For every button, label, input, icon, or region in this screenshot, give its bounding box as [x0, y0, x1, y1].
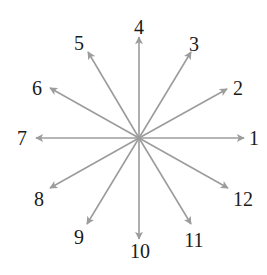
arrow-label-5: 5 — [74, 32, 84, 54]
arrow-label-4: 4 — [134, 16, 144, 38]
arrow-label-8: 8 — [34, 188, 44, 210]
arrow-12 — [139, 138, 228, 188]
arrow-6 — [50, 88, 139, 138]
arrow-label-10: 10 — [130, 240, 150, 262]
arrow-9 — [87, 138, 139, 224]
arrow-3 — [139, 52, 191, 138]
center-point — [137, 136, 140, 139]
arrow-label-7: 7 — [17, 127, 27, 149]
arrow-group — [36, 37, 244, 239]
arrow-label-12: 12 — [233, 188, 253, 210]
arrow-label-9: 9 — [74, 226, 84, 248]
arrow-2 — [139, 89, 227, 138]
arrow-8 — [50, 138, 139, 188]
radial-arrows-diagram: 123456789101112 — [0, 0, 267, 275]
arrow-11 — [139, 138, 191, 224]
arrow-label-3: 3 — [189, 33, 199, 55]
arrow-5 — [88, 52, 139, 138]
arrow-label-11: 11 — [184, 229, 203, 251]
arrow-label-6: 6 — [32, 77, 42, 99]
arrow-label-1: 1 — [249, 127, 259, 149]
arrow-label-2: 2 — [233, 77, 243, 99]
